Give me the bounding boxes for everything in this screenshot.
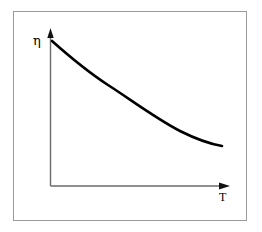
x-axis-arrowhead bbox=[219, 183, 230, 190]
x-axis-label: T bbox=[219, 191, 226, 203]
y-axis-label: η bbox=[33, 34, 41, 47]
y-axis-arrowhead bbox=[47, 28, 53, 38]
viscosity-decay-curve bbox=[52, 41, 222, 146]
figure-root: η T bbox=[0, 0, 262, 232]
